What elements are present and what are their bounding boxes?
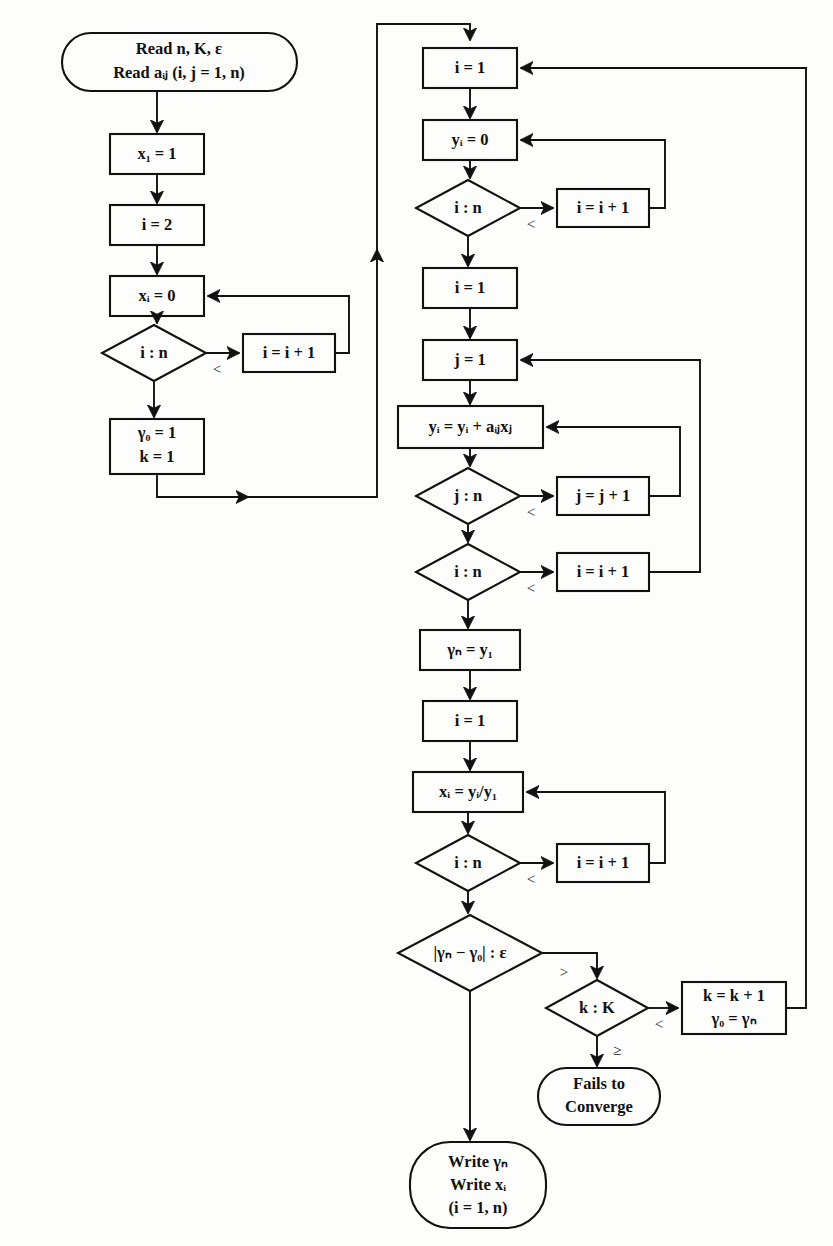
node-gamma-k-init: γ₀ = 1 k = 1 <box>110 419 204 474</box>
accumulate-label: yᵢ = yᵢ + aᵢⱼxⱼ <box>428 417 511 436</box>
flowchart-canvas: Read n, K, ε Read aᵢⱼ (i, j = 1, n) x₁ =… <box>0 0 833 1246</box>
yi-zero-label: yᵢ = 0 <box>451 130 488 149</box>
read-input-line2: Read aᵢⱼ (i, j = 1, n) <box>113 63 245 82</box>
node-read-input: Read n, K, ε Read aᵢⱼ (i, j = 1, n) <box>62 33 297 91</box>
write-out-line3: (i = 1, n) <box>449 1198 508 1217</box>
i-eq-1-b-label: i = 1 <box>455 278 486 297</box>
inc-i-1-label: i = i + 1 <box>263 343 316 362</box>
j-eq-1-label: j = 1 <box>453 350 485 369</box>
cmp-in-3-label: i : n <box>454 562 482 581</box>
node-cmp-in-4: i : n <box>416 835 520 891</box>
node-inc-j: j = j + 1 <box>557 477 649 515</box>
cmp-in-2-label: i : n <box>454 198 482 217</box>
node-yi-zero: yᵢ = 0 <box>423 120 517 160</box>
node-cmp-kK: k : K <box>546 980 648 1036</box>
node-j-eq-1: j = 1 <box>423 340 517 380</box>
fails-line1: Fails to <box>573 1074 625 1093</box>
i-eq-1-a-label: i = 1 <box>455 58 486 77</box>
node-i-eq-1-b: i = 1 <box>423 268 517 308</box>
connector-converge-to-cmpkK <box>542 953 597 978</box>
node-inc-i-2: i = i + 1 <box>557 189 649 227</box>
node-i-eq-1-c: i = 1 <box>423 701 517 741</box>
normalize-label: xᵢ = yᵢ/y₁ <box>439 782 497 801</box>
cmp-in-4-label: i : n <box>454 853 482 872</box>
node-inc-i-4: i = i + 1 <box>557 844 649 882</box>
branch-label-lt-4: < <box>527 580 535 596</box>
inc-i-2-label: i = i + 1 <box>577 198 630 217</box>
branch-label-lt-2: < <box>527 216 535 232</box>
inc-i-4-label: i = i + 1 <box>577 853 630 872</box>
xi-zero-label: xᵢ = 0 <box>138 286 175 305</box>
node-cmp-in-2: i : n <box>416 180 520 236</box>
cmp-kK-label: k : K <box>579 998 615 1017</box>
node-i-eq-1-a: i = 1 <box>423 48 517 88</box>
gamma-k-init-line2: k = 1 <box>139 447 174 466</box>
inc-i-3-label: i = i + 1 <box>577 562 630 581</box>
i-eq-1-c-label: i = 1 <box>455 711 486 730</box>
node-inc-i-1: i = i + 1 <box>243 334 335 372</box>
fails-line2: Converge <box>565 1097 633 1116</box>
read-input-line1: Read n, K, ε <box>136 39 222 58</box>
connector-inci3-loopback <box>521 360 700 572</box>
node-fails: Fails to Converge <box>538 1068 660 1125</box>
write-out-line2: Write xᵢ <box>450 1175 506 1194</box>
gamma-n-label: γₙ = y₁ <box>446 640 493 659</box>
branch-label-gt-converge: > <box>560 964 568 980</box>
inc-j-label: j = j + 1 <box>575 486 631 505</box>
node-k-update: k = k + 1 γ₀ = γₙ <box>682 982 786 1034</box>
cmp-converge-label: |γₙ − γ₀| : ε <box>433 943 506 962</box>
node-gamma-n: γₙ = y₁ <box>420 630 520 670</box>
node-i-eq-2: i = 2 <box>110 205 204 245</box>
node-cmp-converge: |γₙ − γ₀| : ε <box>398 915 542 991</box>
node-accumulate: yᵢ = yᵢ + aᵢⱼxⱼ <box>398 406 543 448</box>
write-out-line1: Write γₙ <box>448 1152 508 1171</box>
gamma-k-init-line1: γ₀ = 1 <box>137 423 177 442</box>
branch-label-lt-3: < <box>527 504 535 520</box>
k-update-line1: k = k + 1 <box>703 986 765 1005</box>
x1-init-label: x₁ = 1 <box>137 144 176 163</box>
branch-label-lt-5: < <box>527 871 535 887</box>
node-normalize: xᵢ = yᵢ/y₁ <box>413 772 523 812</box>
i-eq-2-label: i = 2 <box>142 215 173 234</box>
k-update-line2: γ₀ = γₙ <box>710 1009 756 1028</box>
branch-label-ge-kK: ≥ <box>613 1042 621 1058</box>
branch-label-lt-6: < <box>655 1016 663 1032</box>
node-xi-zero: xᵢ = 0 <box>110 276 204 316</box>
node-x1-init: x₁ = 1 <box>110 134 204 174</box>
branch-label-lt-1: < <box>213 361 221 377</box>
node-cmp-jn: j : n <box>416 468 520 524</box>
node-inc-i-3: i = i + 1 <box>557 553 649 591</box>
node-cmp-in-3: i : n <box>416 544 520 600</box>
cmp-jn-label: j : n <box>453 486 482 505</box>
cmp-in-1-label: i : n <box>140 343 168 362</box>
node-cmp-in-1: i : n <box>102 325 206 381</box>
node-write-out: Write γₙ Write xᵢ (i = 1, n) <box>410 1142 546 1228</box>
